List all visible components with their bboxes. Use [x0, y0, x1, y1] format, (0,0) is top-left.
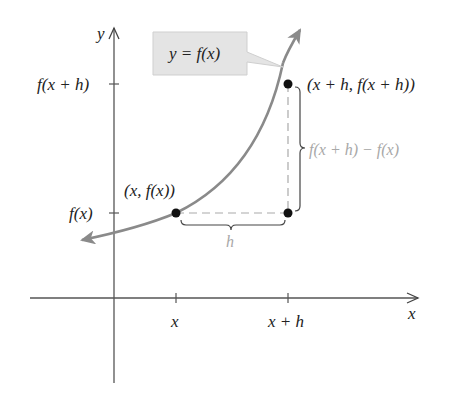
- point-label-xh-fxh: (x + h, f(x + h)): [307, 75, 415, 94]
- point-x-fx: [172, 209, 181, 218]
- horizontal-brace: [181, 220, 285, 230]
- braces: h f(x + h) − f(x): [181, 87, 399, 250]
- point-corner: [284, 209, 293, 218]
- y-tick-label-fxh: f(x + h): [37, 75, 89, 94]
- x-axis-label: x: [407, 304, 416, 323]
- vertical-brace-label: f(x + h) − f(x): [309, 141, 399, 159]
- vertical-brace: [295, 87, 305, 211]
- point-xh-fxh: [284, 80, 293, 89]
- horizontal-brace-label: h: [226, 233, 234, 250]
- point-label-x-fx: (x, f(x)): [124, 181, 175, 200]
- x-tick-label-x: x: [170, 312, 179, 331]
- function-curve-upper-tip: [283, 30, 300, 63]
- difference-quotient-diagram: x y x x + h f(x + h) f(x) h f(x + h) − f…: [0, 0, 459, 396]
- y-axis-label: y: [95, 24, 105, 43]
- ticks: x x + h f(x + h) f(x): [37, 75, 304, 331]
- callout-label: y = f(x): [167, 44, 220, 63]
- y-tick-label-fx: f(x): [69, 204, 93, 223]
- function-callout: y = f(x): [153, 32, 283, 75]
- x-tick-label-x-plus-h: x + h: [267, 312, 304, 331]
